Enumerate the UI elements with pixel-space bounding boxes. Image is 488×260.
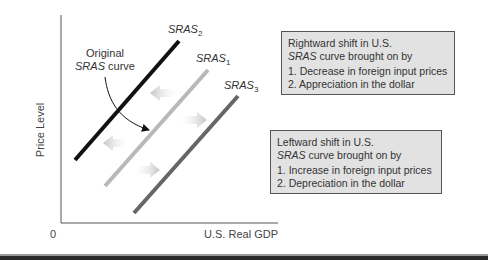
right-shift-arrow-icon [135,162,160,178]
y-axis-label: Price Level [34,103,46,157]
x-axis-label: U.S. Real GDP [204,228,278,240]
rightward-box-subtitle: SRAS curve brought on by [288,50,448,63]
rightward-box-item: 2. Appreciation in the dollar [288,78,448,91]
original-curve-annotation-line2: SRAS curve [75,60,135,72]
rightward-box-item: 1. Decrease in foreign input prices [288,65,448,78]
leftward-box-title: Leftward shift in U.S. [277,136,435,149]
leftward-box-subtitle: SRAS curve brought on by [277,149,435,162]
right-shift-arrow-icon [180,112,207,128]
original-curve-annotation-line1: Original [86,47,124,59]
origin-label: 0 [50,228,56,240]
rightward-box-title: Rightward shift in U.S. [288,37,448,50]
sras2-label: SRAS2 [168,23,203,38]
sras1-label: SRAS1 [196,52,231,67]
leftward-box-item: 1. Increase in foreign input prices [277,164,435,177]
bottom-rule-divider [0,256,488,260]
left-shift-arrow-icon [150,85,177,101]
leftward-shift-box: Leftward shift in U.S. SRAS curve brough… [270,130,442,194]
rightward-shift-box: Rightward shift in U.S. SRAS curve broug… [281,31,455,95]
sras3-curve [134,96,238,213]
left-shift-arrow-icon [103,135,128,151]
sras3-label: SRAS3 [224,79,259,94]
leftward-box-item: 2. Depreciation in the dollar [277,177,435,190]
